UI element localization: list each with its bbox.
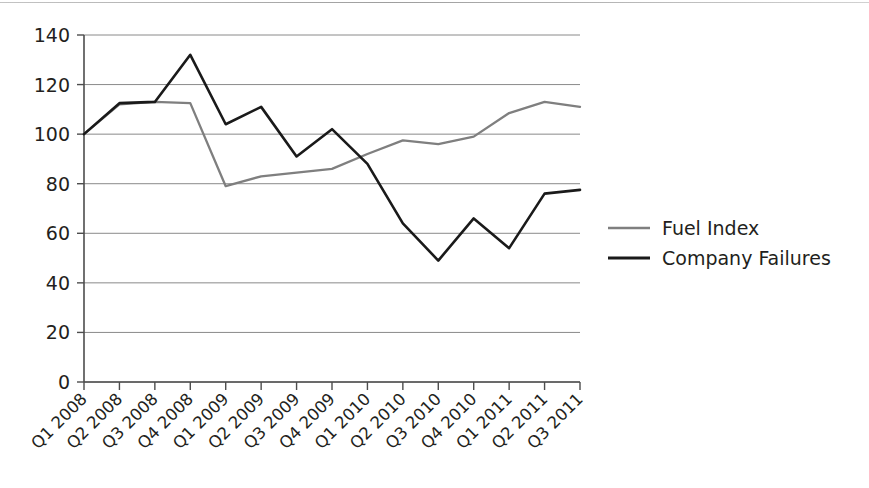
y-tick-label: 100 [34,123,70,145]
y-tick-label: 0 [58,371,70,393]
line-chart: 020406080100120140 Q1 2008Q2 2008Q3 2008… [0,0,869,488]
legend-label-company-failures: Company Failures [662,247,831,269]
scan-artifact-line [0,2,869,3]
chart-figure: 020406080100120140 Q1 2008Q2 2008Q3 2008… [0,0,869,488]
chart-legend: Fuel IndexCompany Failures [608,217,831,269]
y-tick-label: 80 [46,173,70,195]
axis-group [84,35,580,382]
legend-label-fuel-index: Fuel Index [662,217,759,239]
y-tick-label: 20 [46,321,70,343]
y-tick-group: 020406080100120140 [34,24,84,393]
x-tick-label-group: Q1 2008Q2 2008Q3 2008Q4 2008Q1 2009Q2 20… [27,389,586,452]
series-line-company-failures [84,55,580,261]
x-tick-group [84,382,580,390]
data-series-group [84,55,580,261]
y-tick-label: 40 [46,272,70,294]
series-line-fuel-index [84,102,580,186]
gridline-group [84,35,580,382]
y-tick-label: 60 [46,222,70,244]
y-tick-label: 120 [34,74,70,96]
y-tick-label: 140 [34,24,70,46]
